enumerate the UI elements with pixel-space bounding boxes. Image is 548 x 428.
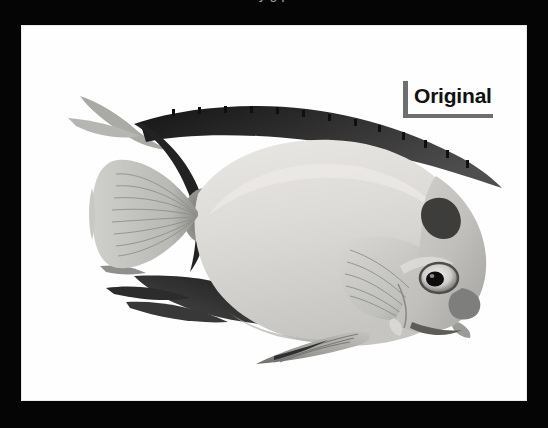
- original-label: Original: [414, 82, 492, 110]
- annotation-horizontal-line: [403, 114, 493, 118]
- annotation-vertical-line: [403, 81, 408, 116]
- clipped-slide-title: y g p: [0, 0, 548, 3]
- image-panel: Original: [22, 26, 526, 400]
- original-annotation: Original: [403, 81, 495, 119]
- eye: [420, 263, 458, 293]
